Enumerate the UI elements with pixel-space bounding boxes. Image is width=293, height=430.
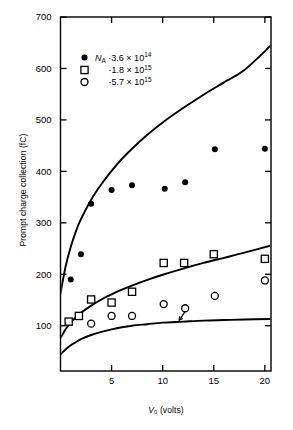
data-point-s2-4 [182, 305, 189, 312]
legend-label-2: ·5.7 × 1015 [95, 76, 152, 87]
chart-plot-area: 1002003004005006007005101520NA ·3.6 × 10… [0, 0, 293, 430]
data-point-s1-7 [210, 251, 217, 258]
x-axis-title-unit: (volts) [160, 405, 184, 415]
y-tick-label-600: 600 [36, 63, 52, 74]
data-point-s0-6 [182, 179, 188, 185]
data-point-s0-4 [129, 182, 135, 188]
data-point-s1-2 [88, 296, 95, 303]
data-point-s2-5 [211, 292, 218, 299]
y-tick-label-200: 200 [36, 269, 52, 280]
data-point-s1-6 [181, 259, 188, 266]
legend-marker-open-square [81, 66, 88, 73]
data-point-s1-1 [75, 312, 82, 319]
legend-label-1: ·1.8 × 1015 [95, 64, 152, 75]
data-point-s1-5 [160, 259, 167, 266]
data-point-s1-3 [108, 299, 115, 306]
series-1-markers [65, 251, 268, 326]
legend: NA ·3.6 × 1014 ·1.8 × 1015 ·5.7 × 1015 [81, 51, 152, 87]
y-axis-title: Prompt charge collection (fC) [18, 105, 28, 275]
data-point-s2-0 [88, 320, 95, 327]
data-point-s1-8 [261, 255, 268, 262]
legend-label-0: NA ·3.6 × 1014 [95, 51, 152, 64]
data-point-s1-4 [128, 288, 135, 295]
x-axis-title: V0 (volts) [60, 405, 272, 415]
data-point-s2-2 [129, 312, 136, 319]
data-point-s0-2 [88, 201, 94, 207]
model-curve-0 [61, 45, 272, 293]
data-point-s0-8 [262, 146, 268, 152]
x-tick-label-10: 10 [157, 375, 168, 386]
data-point-s1-0 [65, 318, 72, 325]
data-point-s2-1 [108, 312, 115, 319]
data-point-s2-3 [160, 301, 167, 308]
data-point-s0-3 [109, 187, 115, 193]
x-tick-label-15: 15 [208, 375, 219, 386]
y-tick-label-700: 700 [36, 11, 52, 22]
legend-marker-filled-circle [82, 55, 88, 61]
y-tick-label-500: 500 [36, 114, 52, 125]
y-tick-label-100: 100 [36, 320, 52, 331]
x-tick-label-5: 5 [109, 375, 114, 386]
x-axis-title-subscript: 0 [154, 409, 157, 415]
data-point-s0-7 [212, 146, 218, 152]
plot-frame [61, 17, 272, 371]
data-point-s0-0 [68, 276, 74, 282]
data-point-s2-6 [261, 277, 268, 284]
model-curve-group [61, 45, 272, 354]
y-tick-label-400: 400 [36, 166, 52, 177]
data-point-s0-5 [162, 186, 168, 192]
figure-chart: 1002003004005006007005101520NA ·3.6 × 10… [0, 0, 293, 430]
x-tick-label-20: 20 [260, 375, 271, 386]
legend-marker-open-circle [81, 79, 88, 86]
data-point-s0-1 [78, 251, 84, 257]
y-tick-label-300: 300 [36, 217, 52, 228]
